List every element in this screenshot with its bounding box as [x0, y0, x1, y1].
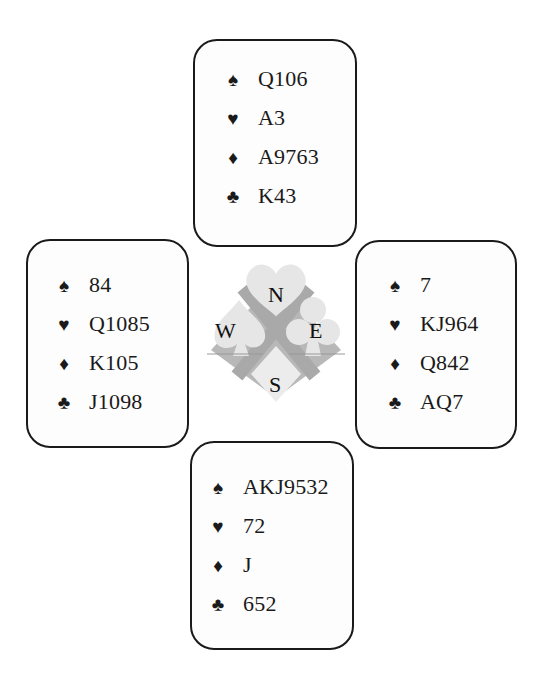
heart-icon: ♥: [53, 315, 75, 334]
heart-icon: ♥: [207, 517, 229, 536]
spade-icon: ♠: [384, 276, 406, 295]
compass-rose-logo: N W E S: [203, 258, 349, 404]
north-hand: ♠ Q106 ♥ A3 ♦ A9763 ♣ K43: [193, 39, 357, 247]
west-hearts: Q1085: [89, 311, 150, 337]
south-hearts: 72: [243, 513, 265, 539]
east-spades-row: ♠ 7: [384, 270, 431, 300]
north-clubs-row: ♣ K43: [222, 181, 297, 211]
club-icon: ♣: [207, 595, 229, 614]
west-hearts-row: ♥ Q1085: [53, 309, 150, 339]
east-hearts: KJ964: [420, 311, 478, 337]
west-diamonds: K105: [89, 350, 139, 376]
east-diamonds: Q842: [420, 350, 470, 376]
north-diamonds: A9763: [258, 144, 319, 170]
club-icon: ♣: [384, 393, 406, 412]
diamond-icon: ♦: [384, 354, 406, 373]
west-diamonds-row: ♦ K105: [53, 348, 139, 378]
west-clubs-row: ♣ J1098: [53, 387, 143, 417]
west-spades-row: ♠ 84: [53, 270, 111, 300]
west-spades: 84: [89, 272, 111, 298]
east-spades: 7: [420, 272, 431, 298]
club-icon: ♣: [222, 187, 244, 206]
spade-icon: ♠: [207, 478, 229, 497]
heart-icon: ♥: [384, 315, 406, 334]
compass-south-label: S: [269, 372, 281, 397]
south-clubs: 652: [243, 591, 277, 617]
east-diamonds-row: ♦ Q842: [384, 348, 470, 378]
compass-west-label: W: [215, 318, 236, 343]
diamond-icon: ♦: [207, 556, 229, 575]
club-icon: ♣: [53, 393, 75, 412]
east-clubs: AQ7: [420, 389, 463, 415]
compass-east-label: E: [309, 318, 322, 343]
south-spades: AKJ9532: [243, 474, 329, 500]
west-hand: ♠ 84 ♥ Q1085 ♦ K105 ♣ J1098: [26, 239, 189, 448]
north-hearts-row: ♥ A3: [222, 103, 285, 133]
east-hearts-row: ♥ KJ964: [384, 309, 478, 339]
north-spades-row: ♠ Q106: [222, 64, 308, 94]
heart-icon: ♥: [222, 109, 244, 128]
north-clubs: K43: [258, 183, 297, 209]
north-diamonds-row: ♦ A9763: [222, 142, 319, 172]
south-clubs-row: ♣ 652: [207, 589, 277, 619]
compass-north-label: N: [268, 282, 284, 307]
diamond-icon: ♦: [53, 354, 75, 373]
south-diamonds: J: [243, 552, 252, 578]
east-hand: ♠ 7 ♥ KJ964 ♦ Q842 ♣ AQ7: [355, 240, 517, 449]
south-diamonds-row: ♦ J: [207, 550, 252, 580]
south-hand: ♠ AKJ9532 ♥ 72 ♦ J ♣ 652: [190, 441, 354, 650]
west-clubs: J1098: [89, 389, 143, 415]
spade-icon: ♠: [53, 276, 75, 295]
east-clubs-row: ♣ AQ7: [384, 387, 463, 417]
diamond-icon: ♦: [222, 148, 244, 167]
north-hearts: A3: [258, 105, 285, 131]
south-hearts-row: ♥ 72: [207, 511, 265, 541]
spade-icon: ♠: [222, 70, 244, 89]
north-spades: Q106: [258, 66, 308, 92]
south-spades-row: ♠ AKJ9532: [207, 472, 329, 502]
